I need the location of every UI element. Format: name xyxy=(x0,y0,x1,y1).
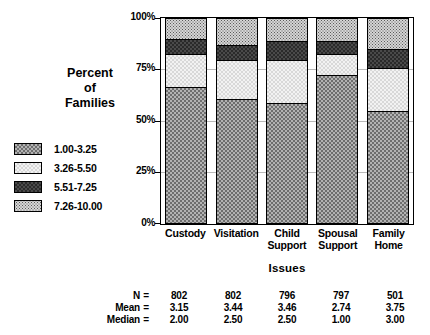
statistics-row: N=802802796797501 xyxy=(60,289,422,301)
legend: 1.00-3.253.26-5.505.51-7.257.26-10.00 xyxy=(14,141,102,217)
statistics-values: 2.002.502.501.003.00 xyxy=(152,314,422,325)
bar-segment xyxy=(217,45,257,60)
statistics-table: N=802802796797501Mean=3.153.443.462.743.… xyxy=(60,289,422,325)
legend-item: 1.00-3.25 xyxy=(14,141,102,156)
statistics-cell: 3.15 xyxy=(152,302,206,313)
statistics-cell: 3.46 xyxy=(260,302,314,313)
stacked-bar xyxy=(216,18,258,224)
bar-group xyxy=(161,18,413,224)
legend-swatch xyxy=(14,181,42,193)
statistics-cell: 797 xyxy=(314,290,368,301)
bar-segment xyxy=(317,75,357,223)
x-axis-labels: CustodyVisitationChildSupportSpousalSupp… xyxy=(160,227,414,251)
y-axis-title-line-3: Families xyxy=(38,96,142,111)
stacked-bar-chart: Percent of Families 100% 75% 50% 25% 0% … xyxy=(0,0,430,335)
statistics-cell: 3.75 xyxy=(368,302,422,313)
statistics-values: 3.153.443.462.743.75 xyxy=(152,302,422,313)
bar-segment xyxy=(317,41,357,54)
stacked-bar xyxy=(165,18,207,224)
statistics-cell: 2.74 xyxy=(314,302,368,313)
x-axis-title: Issues xyxy=(160,262,414,274)
bar-segment xyxy=(267,19,307,41)
legend-item: 5.51-7.25 xyxy=(14,179,102,194)
x-axis-label: Visitation xyxy=(211,227,262,251)
legend-swatch xyxy=(14,162,42,174)
statistics-cell: 1.00 xyxy=(314,314,368,325)
bar-column xyxy=(216,18,258,224)
y-axis-title-line-2: of xyxy=(38,81,142,96)
bar-column xyxy=(266,18,308,224)
bar-segment xyxy=(317,54,357,75)
statistics-equals-sign: = xyxy=(140,290,152,301)
bar-segment xyxy=(368,49,408,68)
legend-item: 3.26-5.50 xyxy=(14,160,102,175)
plot-area xyxy=(160,17,414,225)
y-tick-label-50: 50% xyxy=(113,115,155,125)
bar-segment xyxy=(317,19,357,41)
statistics-cell: 2.00 xyxy=(152,314,206,325)
bar-segment xyxy=(166,54,206,87)
legend-swatch xyxy=(14,143,42,155)
statistics-cell: 802 xyxy=(206,290,260,301)
statistics-row-label: Median xyxy=(60,314,140,325)
y-tick-label-100: 100% xyxy=(113,12,155,22)
x-axis-label: ChildSupport xyxy=(262,227,313,251)
stacked-bar xyxy=(316,18,358,224)
bar-segment xyxy=(166,19,206,39)
x-axis-label: SpousalSupport xyxy=(312,227,363,251)
statistics-equals-sign: = xyxy=(140,302,152,313)
legend-label: 3.26-5.50 xyxy=(54,162,97,174)
bar-segment xyxy=(368,111,408,223)
bar-segment xyxy=(166,87,206,223)
stacked-bar xyxy=(367,18,409,224)
x-axis-label: FamilyHome xyxy=(363,227,414,251)
legend-label: 5.51-7.25 xyxy=(54,181,97,193)
stacked-bar xyxy=(266,18,308,224)
y-tick-label-25: 25% xyxy=(113,166,155,176)
bar-segment xyxy=(267,41,307,60)
bar-segment xyxy=(217,60,257,99)
y-tick-label-0: 0% xyxy=(113,218,155,228)
bar-column xyxy=(165,18,207,224)
statistics-row: Median=2.002.502.501.003.00 xyxy=(60,313,422,325)
statistics-row-label: N xyxy=(60,290,140,301)
bar-segment xyxy=(368,19,408,49)
bar-segment xyxy=(217,99,257,223)
y-tick-label-75: 75% xyxy=(113,63,155,73)
legend-swatch xyxy=(14,200,42,212)
bar-segment xyxy=(267,103,307,223)
legend-item: 7.26-10.00 xyxy=(14,198,102,213)
statistics-row: Mean=3.153.443.462.743.75 xyxy=(60,301,422,313)
statistics-cell: 2.50 xyxy=(260,314,314,325)
statistics-cell: 802 xyxy=(152,290,206,301)
bar-column xyxy=(367,18,409,224)
legend-label: 1.00-3.25 xyxy=(54,143,97,155)
x-axis-label: Custody xyxy=(160,227,211,251)
statistics-row-label: Mean xyxy=(60,302,140,313)
statistics-cell: 3.44 xyxy=(206,302,260,313)
statistics-values: 802802796797501 xyxy=(152,290,422,301)
bar-segment xyxy=(166,39,206,54)
statistics-cell: 2.50 xyxy=(206,314,260,325)
statistics-cell: 501 xyxy=(368,290,422,301)
bar-column xyxy=(316,18,358,224)
statistics-cell: 796 xyxy=(260,290,314,301)
statistics-cell: 3.00 xyxy=(368,314,422,325)
bar-segment xyxy=(267,60,307,103)
bar-segment xyxy=(368,68,408,111)
bar-segment xyxy=(217,19,257,45)
legend-label: 7.26-10.00 xyxy=(54,200,102,212)
statistics-equals-sign: = xyxy=(140,314,152,325)
